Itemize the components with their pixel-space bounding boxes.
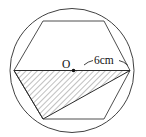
center-label: O: [62, 58, 70, 70]
radius-length-label: 6cm: [94, 54, 114, 66]
geometry-figure: O 6cm: [0, 0, 146, 137]
shaded-triangle-fill: [14, 71, 130, 120]
geometry-canvas: O 6cm: [0, 0, 146, 137]
dimension-leader-left-icon: [84, 61, 93, 66]
dimension-leader-right-icon: [119, 61, 128, 66]
center-point-dot: [72, 69, 76, 73]
